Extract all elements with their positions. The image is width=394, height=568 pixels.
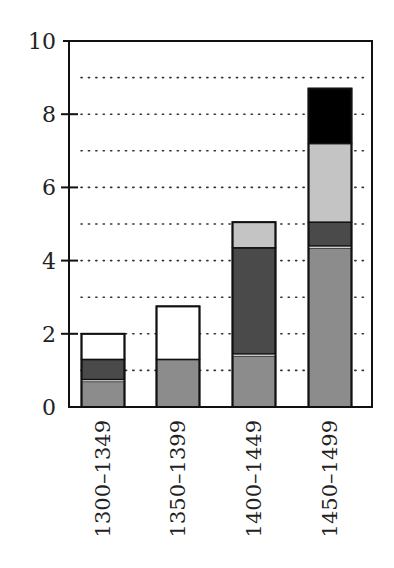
bar-segment-light-gray bbox=[309, 143, 352, 222]
y-tick-label: 10 bbox=[28, 29, 56, 54]
bar-segment-medium-gray bbox=[82, 381, 125, 407]
bar-1300–1349 bbox=[82, 334, 125, 407]
bar-1450–1499 bbox=[309, 89, 352, 407]
bar-segment-medium-gray bbox=[309, 248, 352, 407]
y-tick-label: 2 bbox=[42, 322, 56, 347]
bar-segment-dark-gray bbox=[233, 248, 276, 354]
y-tick-label: 8 bbox=[42, 102, 56, 127]
y-axis-ticks: 0246810 bbox=[28, 29, 78, 420]
bar-segment-dark-gray bbox=[82, 359, 125, 379]
bar-segment-medium-gray bbox=[157, 359, 200, 407]
y-tick-label: 0 bbox=[42, 395, 56, 420]
bar-segment-white bbox=[157, 306, 200, 359]
bar-segment-dark-gray bbox=[309, 222, 352, 246]
y-tick-label: 6 bbox=[42, 175, 56, 200]
bar-segment-black bbox=[309, 89, 352, 144]
bar-segment-white bbox=[82, 334, 125, 360]
bar-1400–1449 bbox=[233, 222, 276, 407]
bars bbox=[82, 89, 352, 407]
chart-canvas: 0246810 1300–13491350–13991400–14491450–… bbox=[0, 0, 394, 568]
bar-segment-medium-gray bbox=[233, 356, 276, 407]
x-axis-labels: 1300–13491350–13991400–14491450–1499 bbox=[91, 420, 342, 537]
bar-segment-light-gray bbox=[233, 222, 276, 248]
x-tick-label: 1300–1349 bbox=[91, 420, 115, 537]
x-tick-label: 1450–1499 bbox=[318, 420, 342, 537]
bar-1350–1399 bbox=[157, 306, 200, 407]
stacked-bar-chart: 0246810 1300–13491350–13991400–14491450–… bbox=[0, 0, 394, 568]
y-tick-label: 4 bbox=[42, 249, 56, 274]
x-tick-label: 1400–1449 bbox=[242, 420, 266, 537]
x-tick-label: 1350–1399 bbox=[166, 420, 190, 537]
